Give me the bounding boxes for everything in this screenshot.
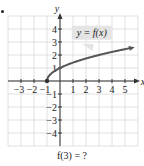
question-text: f(3) = ? bbox=[0, 150, 144, 161]
x-tick-label: 2 bbox=[84, 84, 89, 95]
callout-pointer bbox=[82, 44, 94, 51]
y-tick-label: 2 bbox=[52, 50, 57, 61]
y-tick-label: −1 bbox=[46, 89, 57, 100]
x-tick-label: 4 bbox=[110, 84, 115, 95]
y-tick-label: −2 bbox=[46, 102, 57, 113]
y-tick-label: −4 bbox=[46, 128, 57, 139]
y-tick-label: 3 bbox=[52, 37, 57, 48]
x-axis-label: x bbox=[140, 76, 144, 87]
curve-start-point bbox=[45, 79, 49, 83]
x-tick-label: 5 bbox=[123, 84, 128, 95]
y-tick-label: −3 bbox=[46, 115, 57, 126]
y-axis-label: y bbox=[54, 3, 60, 14]
x-tick-label: 3 bbox=[97, 84, 102, 95]
x-tick-label: −2 bbox=[27, 84, 38, 95]
curve-arrow-icon bbox=[128, 46, 135, 51]
x-tick-label: −3 bbox=[14, 84, 25, 95]
x-tick-label: 1 bbox=[71, 84, 76, 95]
x-axis-arrow-icon bbox=[134, 79, 140, 84]
function-graph: xy−3−2−112345−4−3−2−11234y = f(x) bbox=[0, 0, 144, 150]
y-tick-label: 4 bbox=[52, 24, 57, 35]
callout-label: y = f(x) bbox=[76, 27, 108, 39]
